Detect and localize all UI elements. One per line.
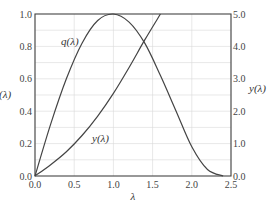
- left-axis-ticks: 0.00.20.40.60.81.0: [20, 9, 33, 182]
- left-tick-label: 1.0: [20, 9, 33, 20]
- x-tick-label: 0.5: [68, 179, 81, 190]
- left-axis-label: (λ): [0, 88, 11, 101]
- left-tick-label: 0.2: [20, 138, 33, 149]
- dual-axis-line-chart: 0.00.51.01.52.02.5 0.00.20.40.60.81.0 0.…: [0, 0, 277, 213]
- left-tick-label: 0.8: [20, 41, 33, 52]
- x-tick-label: 1.0: [107, 179, 120, 190]
- right-tick-label: 4.0: [233, 41, 246, 52]
- x-axis-label: λ: [130, 190, 136, 202]
- left-tick-label: 0.4: [20, 106, 33, 117]
- right-tick-label: 0.0: [233, 171, 246, 182]
- right-tick-label: 5.0: [233, 9, 246, 20]
- right-axis-label: y(λ): [248, 82, 266, 95]
- right-tick-label: 2.0: [233, 106, 246, 117]
- x-tick-label: 2.0: [186, 179, 199, 190]
- left-tick-label: 0.6: [20, 73, 33, 84]
- right-axis-ticks: 0.01.02.03.04.05.0: [233, 9, 246, 182]
- q-curve-label: q(λ): [61, 35, 79, 48]
- right-tick-label: 1.0: [233, 138, 246, 149]
- x-tick-label: 1.5: [146, 179, 159, 190]
- x-axis-ticks: 0.00.51.01.52.02.5: [29, 179, 238, 190]
- y-curve-label: y(λ): [91, 132, 109, 145]
- left-tick-label: 0.0: [20, 171, 33, 182]
- right-tick-label: 3.0: [233, 73, 246, 84]
